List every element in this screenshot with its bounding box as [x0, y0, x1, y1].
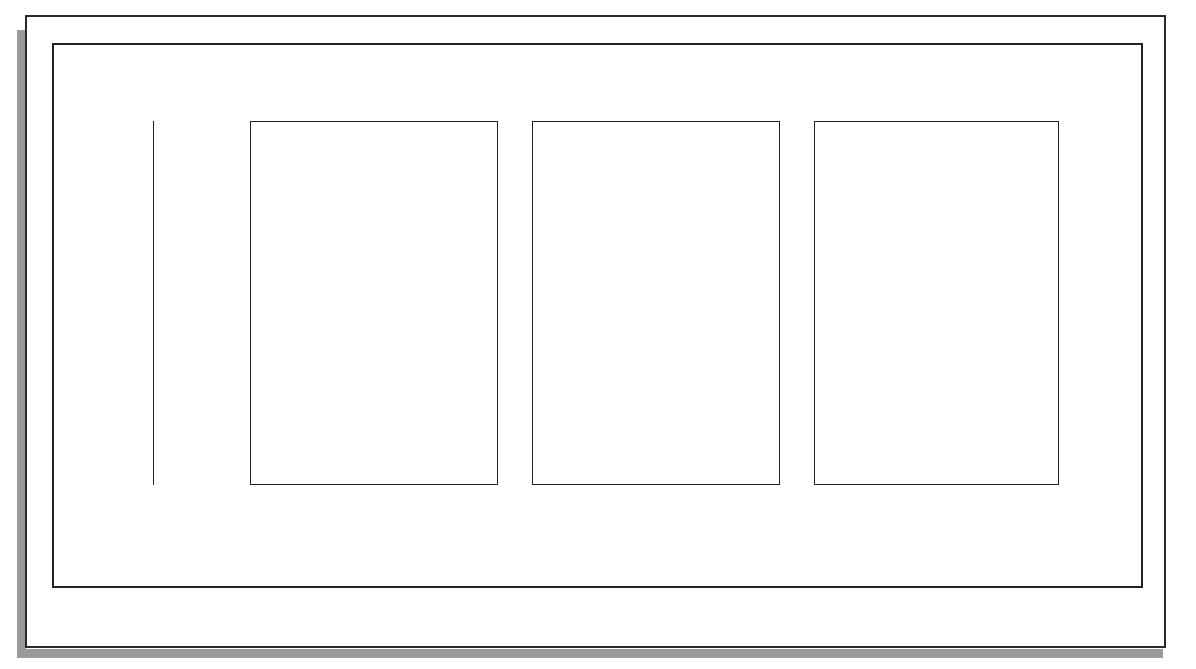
grid-auto-graphing: [532, 121, 780, 485]
frame-shadow-bottom: [17, 649, 1163, 658]
interval-ladder: [153, 121, 178, 485]
grid-auto-graphing-order: [814, 121, 1059, 485]
grid-nongraphing: [250, 121, 498, 485]
